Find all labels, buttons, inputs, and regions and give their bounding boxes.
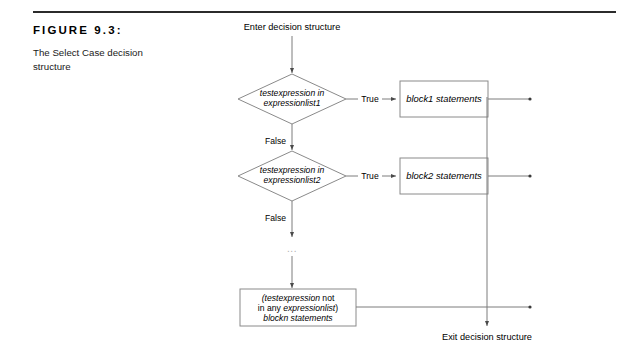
blockn-line2-italic: expressionlist — [283, 303, 336, 313]
blockn-box-line1: (testexpression not — [262, 293, 335, 303]
ellipsis-label: ... — [287, 243, 297, 254]
decision-2-true-label: True — [361, 171, 379, 181]
decision-1-line1: testexpression in — [260, 88, 325, 98]
decision-2-line2: expressionlist2 — [264, 175, 321, 185]
decision-2-line1: testexpression in — [260, 165, 325, 175]
blockn-line1-italic: (testexpression — [262, 293, 320, 303]
flowchart-canvas: Enter decision structure testexpression … — [0, 0, 637, 351]
blockn-line1-roman: not — [320, 293, 335, 303]
blockn-box-line2: in any expressionlist) — [258, 303, 338, 313]
figure-page: FIGURE 9.3: The Select Case decision str… — [0, 0, 637, 351]
decision-1-true-label: True — [361, 94, 379, 104]
decision-1-line2: expressionlist1 — [264, 98, 321, 108]
exit-label: Exit decision structure — [442, 332, 532, 342]
entry-label: Enter decision structure — [244, 22, 341, 32]
decision-2-false-label: False — [265, 213, 286, 223]
blockn-box-line3: blockn statements — [263, 313, 333, 323]
decision-1-false-label: False — [265, 136, 286, 146]
blockn-line2-roman: in any — [258, 303, 283, 313]
block1-box-label: block1 statements — [406, 93, 482, 104]
blockn-line2-close: ) — [335, 303, 338, 313]
block2-box-label: block2 statements — [406, 170, 482, 181]
